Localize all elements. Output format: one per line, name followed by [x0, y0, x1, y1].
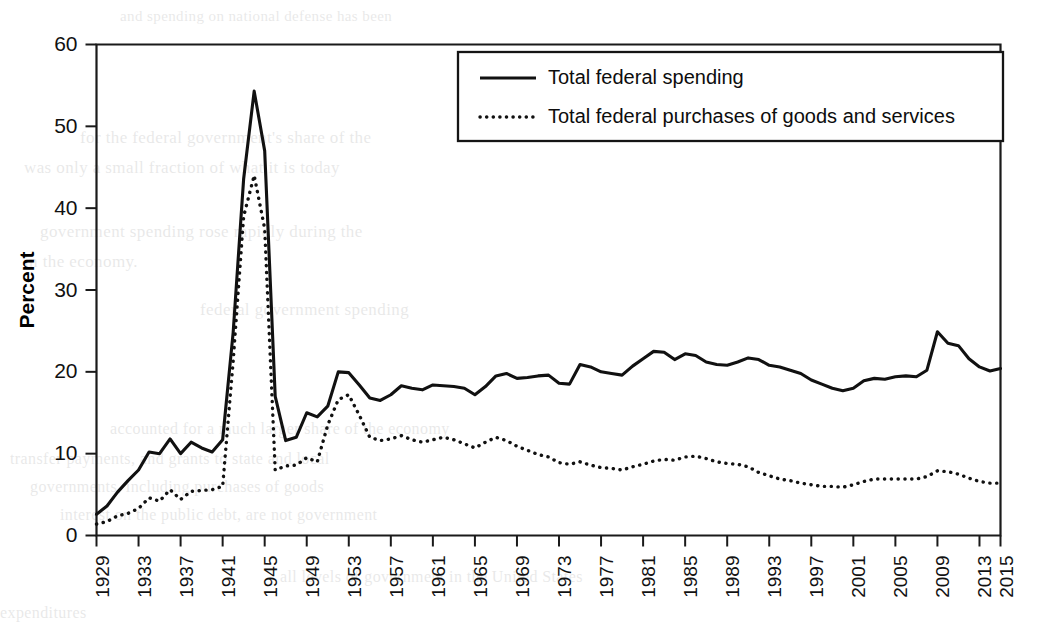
y-tick-label: 30 [54, 278, 77, 301]
x-tick-label: 2009 [932, 556, 953, 598]
y-axis-title-text: Percent [15, 251, 38, 328]
y-tick-label: 60 [54, 32, 77, 55]
y-axis-title: Percent [15, 251, 38, 328]
x-tick-label: 1973 [554, 556, 575, 598]
y-tick-label: 20 [54, 359, 77, 382]
y-axis-tick-labels: 0102030405060 [54, 32, 77, 546]
x-tick-label: 1969 [512, 556, 533, 598]
data-series-group [97, 91, 1001, 524]
x-tick-label: 2001 [848, 556, 869, 598]
x-tick-label: 1949 [302, 556, 323, 598]
x-tick-label: 1965 [470, 556, 491, 598]
chart-figure: and spending on national defense has bee… [0, 0, 1037, 628]
x-tick-label: 1937 [176, 556, 197, 598]
legend-label-1: Total federal spending [548, 66, 744, 88]
y-tick-label: 50 [54, 114, 77, 137]
x-tick-label: 1977 [596, 556, 617, 598]
y-tick-label: 0 [66, 523, 78, 546]
x-tick-label: 2015 [996, 556, 1017, 598]
x-tick-label: 1985 [680, 556, 701, 598]
x-tick-label: 1961 [428, 556, 449, 598]
y-tick-label: 10 [54, 441, 77, 464]
legend-label-2: Total federal purchases of goods and ser… [548, 105, 955, 127]
x-tick-label: 1989 [722, 556, 743, 598]
x-tick-label: 2005 [890, 556, 911, 598]
series-line-1 [97, 91, 1001, 514]
x-axis-ticks [97, 536, 1001, 547]
y-axis-ticks [86, 45, 97, 536]
x-tick-label: 1981 [638, 556, 659, 598]
x-tick-label: 1941 [218, 556, 239, 598]
x-tick-label: 1957 [386, 556, 407, 598]
x-tick-label: 2013 [974, 556, 995, 598]
x-tick-label: 1953 [344, 556, 365, 598]
x-tick-label: 1929 [92, 556, 113, 598]
x-tick-label: 1933 [134, 556, 155, 598]
chart-legend: Total federal spendingTotal federal purc… [458, 52, 1003, 141]
x-tick-label: 1945 [260, 556, 281, 598]
x-tick-label: 1997 [806, 556, 827, 598]
x-tick-label: 1993 [764, 556, 785, 598]
federal-spending-line-chart: 0102030405060 19291933193719411945194919… [0, 0, 1037, 628]
x-axis-tick-labels: 1929193319371941194519491953195719611965… [92, 556, 1017, 598]
y-tick-label: 40 [54, 196, 77, 219]
